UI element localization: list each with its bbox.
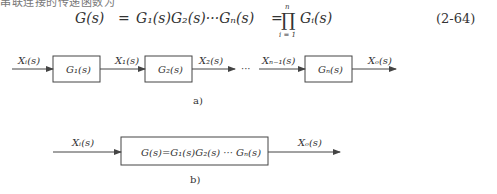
signal-xn-1-label: Xₙ₋₁(s) [261,55,295,66]
equation-2-64: G(s) = G₁(s)G₂(s)···Gₙ(s) = n ∏ i = 1 Gᵢ… [75,3,475,39]
caption-b: b) [190,174,200,185]
signal-x1-label: X₁(s) [114,55,139,66]
equation-lhs: G(s) [75,10,104,26]
ellipsis: ··· [241,63,251,74]
block-gn-label: Gₙ(s) [318,64,343,75]
output-label-b: Xₒ(s) [297,137,322,148]
output-label-a: Xₒ(s) [367,55,392,66]
product-symbol: ∏ [281,9,295,30]
block-diagram: G(s) = G₁(s)G₂(s)···Gₙ(s) = n ∏ i = 1 Gᵢ… [0,0,497,194]
product-term: Gᵢ(s) [300,10,332,26]
block-g1-label: G₁(s) [66,64,91,75]
input-label-b: Xᵢ(s) [71,137,94,148]
signal-x2-label: X₂(s) [198,55,223,66]
block-equivalent-label: G(s)=G₁(s)G₂(s) ··· Gₙ(s) [141,147,261,158]
equation-equals-1: = [118,10,130,26]
caption-a: a) [193,95,203,106]
equation-product-chain: G₁(s)G₂(s)···Gₙ(s) [136,10,254,26]
block-g2-label: G₂(s) [158,64,183,75]
product-lower-limit: i = 1 [279,31,296,39]
input-label-a: Xᵢ(s) [17,55,40,66]
equation-number: (2-64) [436,11,475,26]
